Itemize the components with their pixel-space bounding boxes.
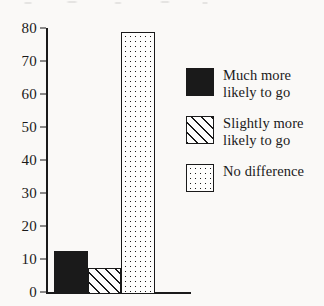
bar-chart-figure: 80 70 60 50 40 30 20 10 0 Much more like… (0, 0, 324, 306)
legend-label-much-more-likely: Much more likely to go (223, 66, 291, 100)
y-tick-label: 80 (3, 21, 37, 36)
y-tick-label: 40 (3, 153, 37, 168)
bar-slightly-more-likely (88, 268, 121, 295)
legend-item-slightly-more-likely: Slightly more likely to go (186, 114, 324, 148)
y-tick-label: 60 (3, 87, 37, 102)
legend-label-line-1: No difference (223, 163, 304, 180)
legend-label-line-2: likely to go (223, 132, 304, 149)
bar-much-more-likely (54, 251, 88, 294)
y-tick-label: 0 (3, 285, 37, 300)
y-tick-mark (40, 226, 46, 227)
y-tick-mark (40, 259, 46, 260)
y-tick-mark (40, 94, 46, 95)
legend-label-line-1: Slightly more (223, 115, 304, 132)
y-tick-mark (40, 160, 46, 161)
y-tick-mark (40, 28, 46, 29)
y-tick-mark (40, 292, 46, 293)
legend-item-much-more-likely: Much more likely to go (186, 66, 324, 100)
y-axis-line (46, 28, 48, 294)
legend-label-no-difference: No difference (223, 162, 304, 180)
y-tick-label: 70 (3, 54, 37, 69)
bar-no-difference (121, 32, 155, 294)
plot-area: 80 70 60 50 40 30 20 10 0 (0, 0, 200, 306)
dotted-swatch-icon (186, 164, 214, 192)
y-tick-label: 10 (3, 252, 37, 267)
legend-label-slightly-more-likely: Slightly more likely to go (223, 114, 304, 148)
y-tick-label: 30 (3, 186, 37, 201)
y-tick-label: 20 (3, 219, 37, 234)
legend-item-no-difference: No difference (186, 162, 324, 192)
y-tick-mark (40, 193, 46, 194)
y-tick-label: 50 (3, 120, 37, 135)
legend-label-line-2: likely to go (223, 84, 291, 101)
legend: Much more likely to go Slightly more lik… (186, 66, 324, 206)
y-tick-mark (40, 61, 46, 62)
y-tick-mark (40, 127, 46, 128)
solid-black-swatch-icon (186, 68, 214, 96)
legend-label-line-1: Much more (223, 67, 291, 84)
diagonal-hatch-swatch-icon (186, 116, 214, 144)
